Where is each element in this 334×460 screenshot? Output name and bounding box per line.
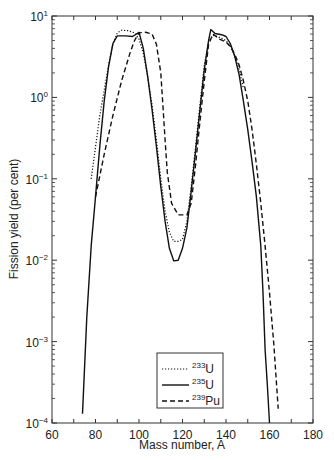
y-tick-label: 10−2 (26, 253, 49, 268)
y-tick-label: 10−1 (26, 172, 49, 187)
x-tick-label: 60 (45, 428, 59, 442)
y-axis-title: Fission yield (per cent) (7, 159, 21, 280)
x-tick-label: 80 (89, 428, 103, 442)
y-tick-label: 10−3 (26, 335, 49, 350)
x-tick-label: 160 (259, 428, 279, 442)
series-line-233U (91, 30, 243, 241)
y-tick-label: 100 (30, 90, 48, 105)
y-tick-label: 101 (30, 9, 48, 24)
fission-yield-chart: 6080100120140160180 10110010−110−210−310… (0, 0, 334, 460)
legend: 233U235U239Pu (157, 353, 223, 408)
y-tick-labels: 10110010−110−210−310−4 (26, 9, 49, 431)
x-axis-title: Mass number, A (139, 438, 225, 452)
x-tick-label: 180 (303, 428, 323, 442)
